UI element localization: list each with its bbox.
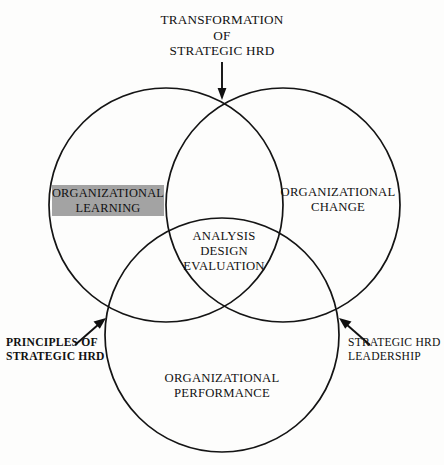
transformation-line-2: OF <box>0 28 444 44</box>
organizational-change-line-2: CHANGE <box>276 200 400 215</box>
leadership-line-2: LEADERSHIP <box>348 350 444 364</box>
label-organizational-change: ORGANIZATIONAL CHANGE <box>276 185 400 215</box>
transformation-line-1: TRANSFORMATION <box>0 12 444 28</box>
transformation-line-3: STRATEGIC HRD <box>0 43 444 59</box>
principles-line-1: PRINCIPLES OF <box>6 336 128 350</box>
organizational-learning-line-2: LEARNING <box>76 201 141 216</box>
organizational-performance-line-2: PERFORMANCE <box>132 386 312 401</box>
principles-line-2: STRATEGIC HRD <box>6 350 128 364</box>
label-transformation-of-strategic-hrd: TRANSFORMATION OF STRATEGIC HRD <box>0 12 444 59</box>
venn-diagram: TRANSFORMATION OF STRATEGIC HRD ORGANIZA… <box>0 0 444 465</box>
leadership-line-1: STRATEGIC HRD <box>348 336 444 350</box>
label-organizational-performance: ORGANIZATIONAL PERFORMANCE <box>132 371 312 401</box>
label-organizational-learning: ORGANIZATIONAL LEARNING <box>52 185 164 216</box>
organizational-performance-line-1: ORGANIZATIONAL <box>132 371 312 386</box>
organizational-learning-line-1: ORGANIZATIONAL <box>52 186 164 201</box>
label-analysis-design-evaluation: ANALYSIS DESIGN EVALUATION <box>168 229 280 274</box>
center-line-3: EVALUATION <box>168 259 280 274</box>
label-strategic-hrd-leadership: STRATEGIC HRD LEADERSHIP <box>348 336 444 363</box>
organizational-change-line-1: ORGANIZATIONAL <box>276 185 400 200</box>
center-line-2: DESIGN <box>168 244 280 259</box>
center-line-1: ANALYSIS <box>168 229 280 244</box>
label-principles-of-strategic-hrd: PRINCIPLES OF STRATEGIC HRD <box>6 336 128 363</box>
arrow-transformation <box>218 62 227 100</box>
